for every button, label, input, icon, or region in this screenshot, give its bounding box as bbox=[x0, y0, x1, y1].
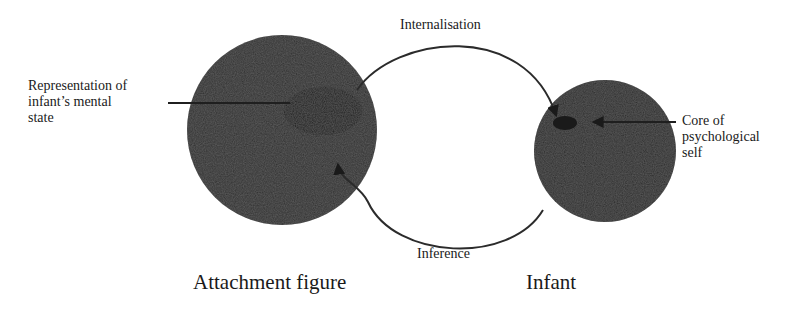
core-self-label: Core of psychological self bbox=[682, 113, 760, 161]
internalisation-label: Internalisation bbox=[400, 17, 481, 33]
representation-label: Representation of infant’s mental state bbox=[28, 78, 127, 126]
representation-label-line-2: infant’s mental bbox=[28, 94, 127, 110]
core-self-label-line-1: Core of bbox=[682, 113, 760, 129]
attachment-figure-label: Attachment figure bbox=[193, 270, 346, 294]
attachment-figure-circle bbox=[187, 35, 377, 225]
infant-label: Infant bbox=[526, 270, 576, 294]
representation-label-line-3: state bbox=[28, 110, 127, 126]
infant-circle bbox=[534, 80, 676, 222]
inference-arc bbox=[338, 165, 543, 249]
inference-label: Inference bbox=[417, 246, 470, 262]
representation-label-line-1: Representation of bbox=[28, 78, 127, 94]
core-self-label-line-2: psychological bbox=[682, 129, 760, 145]
diagram-canvas: Representation of infant’s mental state … bbox=[0, 0, 805, 309]
internalisation-arc bbox=[357, 46, 556, 115]
core-self-ellipse bbox=[553, 116, 577, 130]
representation-ellipse bbox=[284, 87, 362, 135]
core-self-label-line-3: self bbox=[682, 145, 760, 161]
